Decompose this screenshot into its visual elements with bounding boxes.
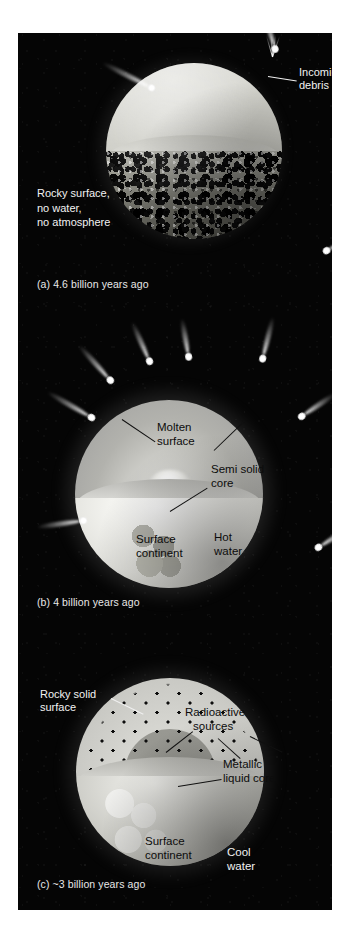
- label-hot-water: Hot water: [214, 531, 242, 558]
- debris-comet-b6: [295, 390, 332, 423]
- debris-comet-b4: [178, 317, 195, 362]
- label-molten-surface: Molten surface: [157, 421, 195, 448]
- caption-panel-c: (c) ~3 billion years ago: [37, 878, 145, 890]
- debris-comet-b5: [258, 316, 278, 365]
- panel-a-4-6-billion-years: Incoming debris Rocky surface, no water,…: [18, 33, 332, 323]
- globe-a: [106, 63, 282, 239]
- debris-comet-a3: [320, 224, 332, 256]
- label-rocky-surface: Rocky surface, no water, no atmosphere: [37, 186, 110, 230]
- debris-comet-b3: [128, 320, 156, 368]
- label-semi-solid-core: Semi solid core: [211, 463, 264, 490]
- label-radioactive-sources: Radioactive sources: [185, 706, 245, 733]
- debris-comet-b2: [76, 342, 117, 387]
- label-rocky-solid-surface: Rocky solid surface: [40, 688, 96, 714]
- caption-panel-a: (a) 4.6 billion years ago: [37, 278, 149, 290]
- debris-comet-b8: [312, 517, 332, 553]
- impact-spray-a: [261, 35, 283, 57]
- caption-panel-b: (b) 4 billion years ago: [37, 596, 140, 608]
- earth-evolution-figure: Incoming debris Rocky surface, no water,…: [18, 33, 332, 910]
- label-surface-continent: Surface continent: [136, 533, 183, 560]
- globe-shading-a: [106, 63, 282, 239]
- label-cool-water: Cool water: [227, 846, 255, 873]
- label-incoming-debris: Incoming debris: [299, 66, 332, 92]
- label-surface-continent-c: Surface continent: [145, 835, 192, 862]
- panel-c-3-billion-years: Rocky solid surface Radioactive sources …: [18, 628, 332, 910]
- panel-b-4-billion-years: Molten surface Semi solid core Surface c…: [18, 323, 332, 628]
- label-metallic-liquid-core: Metallic liquid core: [223, 758, 275, 785]
